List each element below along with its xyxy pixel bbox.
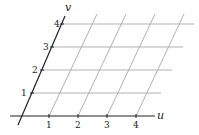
slanted-grid-lines	[49, 14, 184, 116]
oblique-grid-diagram: 1 2 3 4 1 2 3 4 u v	[0, 0, 199, 135]
u-tick-label-1: 1	[46, 120, 52, 130]
u-tick-label-4: 4	[133, 120, 139, 130]
grid-line-u4	[136, 14, 184, 116]
v-tick-label-1: 1	[21, 88, 27, 98]
grid-line-u1	[49, 14, 97, 116]
u-tick-label-2: 2	[75, 120, 81, 130]
v-tick-label-4: 4	[54, 19, 60, 29]
grid-line-u2	[78, 14, 126, 116]
u-axis-label: u	[157, 109, 164, 122]
horizontal-grid-lines	[32, 24, 194, 93]
grid-line-u3	[107, 14, 155, 116]
v-tick-label-2: 2	[32, 65, 38, 75]
u-tick-label-3: 3	[104, 120, 110, 130]
v-tick-label-3: 3	[43, 42, 49, 52]
v-axis-label: v	[65, 1, 72, 14]
